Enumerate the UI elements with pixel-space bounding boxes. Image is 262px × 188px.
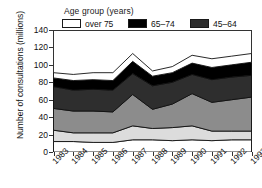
chart-figure: Age group (years) over 75 65–74 45–64 16…	[0, 0, 262, 188]
y-tick-label-20: 20	[39, 130, 48, 140]
legend-swatch-over-75	[62, 19, 81, 28]
y-tick-label-120: 120	[34, 42, 48, 52]
y-tick-label-140: 140	[34, 25, 48, 35]
y-tick-label-40: 40	[39, 112, 48, 122]
legend-label-65-74: 65–74	[151, 19, 175, 29]
legend-swatch-65-74	[128, 19, 147, 28]
legend-label-over-75: over 75	[85, 19, 113, 29]
legend-title: Age group (years)	[64, 6, 258, 16]
legend-label-45-64: 45–64	[213, 19, 237, 29]
legend-item-65-74: 65–74	[128, 19, 190, 29]
legend-row-1: over 75 65–74 45–64	[62, 18, 258, 29]
stacked-area-series	[53, 30, 252, 152]
legend-item-45-64: 45–64	[190, 19, 252, 29]
x-axis: 1983198419851986198719881989199019911992…	[53, 152, 252, 188]
y-axis-title: Number of consultations (millions)	[15, 0, 25, 150]
y-axis: Number of consultations (millions) 02040…	[0, 30, 53, 153]
y-tick-label-100: 100	[34, 60, 48, 70]
y-tick-label-60: 60	[39, 95, 48, 105]
y-tick-label-80: 80	[39, 77, 48, 87]
legend-swatch-45-64	[190, 19, 209, 28]
legend-item-over-75: over 75	[62, 19, 128, 29]
y-tick-label-0: 0	[43, 147, 48, 157]
plot-area	[53, 30, 252, 152]
